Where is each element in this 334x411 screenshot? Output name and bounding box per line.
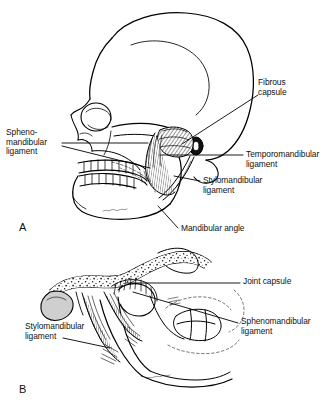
- label-joint-capsule: Joint capsule: [243, 277, 291, 287]
- label-stylomandibular-ligament: Stylomandibular ligament: [203, 176, 262, 195]
- anatomical-figure: [0, 0, 334, 411]
- leader-fibrous-capsule: [182, 95, 258, 144]
- label-temporomandibular-ligament: Temporomandibular ligament: [246, 150, 319, 169]
- panel-letter-b: B: [19, 383, 27, 395]
- leader-mandibular-angle: [158, 206, 178, 228]
- panel-b-illustration: [41, 248, 244, 387]
- label-sphenomandibular-ligament: Spheno- mandibular ligament: [6, 128, 47, 157]
- label-stylomandibular-ligament-b: Stylomandibular ligament: [25, 322, 84, 341]
- leader-stylomandibular: [174, 176, 200, 181]
- panel-letter-a: A: [19, 221, 27, 233]
- leader-sphenomandibular-lower: [62, 146, 150, 168]
- leader-sphenomandibular-b: [133, 292, 238, 323]
- label-fibrous-capsule: Fibrous capsule: [258, 78, 287, 97]
- label-mandibular-angle: Mandibular angle: [181, 224, 244, 234]
- label-sphenomandibular-ligament-b: Sphenomandibular ligament: [241, 317, 311, 336]
